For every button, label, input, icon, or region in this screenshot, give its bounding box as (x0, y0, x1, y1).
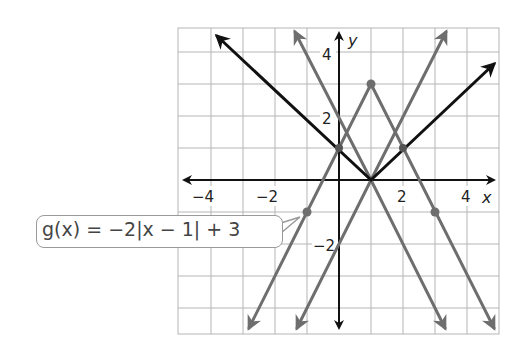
x-tick--2: −2 (256, 188, 278, 206)
point-0-1 (335, 144, 343, 152)
point-m1-m1 (303, 208, 312, 217)
axes (184, 33, 494, 328)
y-axis-label: y (347, 31, 358, 50)
y-tick-4: 4 (322, 46, 332, 64)
y-tick-2: 2 (322, 110, 332, 128)
x-axis-label: x (481, 188, 492, 207)
point-2-1 (399, 144, 407, 152)
x-tick--4: −4 (192, 188, 214, 206)
point-vertex-1-3 (367, 80, 376, 89)
point-3-m1 (431, 208, 440, 217)
f-left-branch (217, 36, 371, 180)
y-tick--2: −2 (313, 237, 335, 255)
function-callout-label: g(x) = −2|x − 1| + 3 (42, 218, 240, 240)
graph: −4 −2 2 4 x 4 2 −2 y (0, 0, 527, 350)
x-tick-2: 2 (397, 188, 407, 206)
v2-left-down (297, 180, 371, 328)
black-curve (217, 36, 494, 180)
x-tick-4: 4 (461, 188, 471, 206)
